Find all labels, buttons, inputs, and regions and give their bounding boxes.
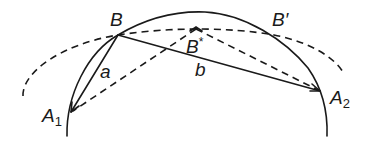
label-b-prime: B′: [272, 10, 288, 29]
label-b: B: [110, 10, 123, 29]
label-a2: A2: [330, 88, 350, 110]
segment-b: [118, 35, 320, 91]
dashed-bstar-a1: [73, 29, 196, 111]
dashed-ellipse-arc: [23, 29, 344, 96]
label-b-star: B*: [186, 36, 203, 56]
label-segment-b: b: [195, 60, 206, 79]
label-a1: A1: [42, 106, 62, 128]
geodesic-diagram: B B* B′ a b A1 A2: [0, 0, 381, 147]
segment-a: [71, 35, 118, 112]
label-segment-a: a: [100, 62, 111, 81]
